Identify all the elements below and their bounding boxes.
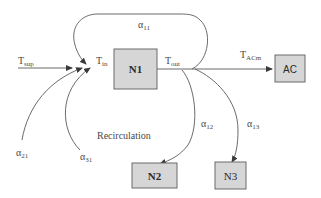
recirculation-label: Recirculation <box>97 130 151 141</box>
alpha-13-arrow <box>195 69 238 162</box>
t-in-label: Tin <box>96 55 108 68</box>
alpha-21-arrow <box>22 68 82 140</box>
node-n1: N1 <box>114 49 157 89</box>
alpha-12-arrow <box>160 70 195 164</box>
alpha-31-arrow <box>65 68 90 150</box>
node-n3-label: N3 <box>224 170 238 182</box>
alpha-11-label: α11 <box>138 19 150 32</box>
t-out-label: Tout <box>165 55 180 68</box>
alpha-13-label: α13 <box>247 118 260 131</box>
alpha-12-label: α12 <box>201 118 214 131</box>
flow-diagram: N1 AC N2 N3 Tsup Tin Tout TACm α11 α21 α… <box>0 0 321 198</box>
node-n1-label: N1 <box>129 63 142 75</box>
alpha-31-label: α31 <box>80 151 93 164</box>
t-sup-label: Tsup <box>18 55 34 68</box>
node-ac: AC <box>275 55 305 82</box>
node-n2: N2 <box>132 163 177 188</box>
node-ac-label: AC <box>283 64 297 75</box>
node-n2-label: N2 <box>148 170 162 182</box>
node-n3: N3 <box>215 162 246 189</box>
alpha-21-label: α21 <box>16 147 29 160</box>
t-acm-label: TACm <box>240 49 262 62</box>
